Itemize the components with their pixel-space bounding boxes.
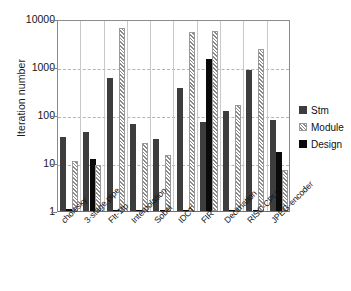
bar-stm bbox=[200, 122, 206, 211]
bar-group bbox=[151, 21, 174, 211]
legend-item: Module bbox=[299, 120, 351, 134]
legend-item: Design bbox=[299, 137, 351, 151]
bar-group bbox=[105, 21, 128, 211]
bar-stm bbox=[223, 111, 229, 211]
bar-group bbox=[198, 21, 221, 211]
iteration-number-bar-chart: Iteration number 100001000100101 cholesk… bbox=[0, 0, 351, 291]
bar-group bbox=[268, 21, 291, 211]
bar-group bbox=[221, 21, 244, 211]
bar-module bbox=[258, 49, 264, 211]
bar-module bbox=[212, 31, 218, 211]
y-axis-tick-label: 10 bbox=[0, 157, 55, 169]
y-axis-title: Iteration number bbox=[15, 33, 27, 163]
legend-label: Stm bbox=[311, 105, 329, 116]
bar-stm bbox=[130, 124, 136, 211]
y-axis-tick-label: 100 bbox=[0, 109, 55, 121]
bar-stm bbox=[60, 137, 66, 211]
plot-area bbox=[57, 20, 290, 212]
bar-group bbox=[81, 21, 104, 211]
bar-group bbox=[128, 21, 151, 211]
y-axis-tick-label: 1000 bbox=[0, 61, 55, 73]
legend-swatch-stm bbox=[299, 106, 307, 114]
bar-group bbox=[244, 21, 267, 211]
bar-module bbox=[119, 28, 125, 211]
bar-stm bbox=[177, 88, 183, 211]
y-axis-tick-label: 1 bbox=[0, 205, 55, 217]
y-axis-tick-mark bbox=[51, 212, 57, 213]
y-axis-tick-label: 10000 bbox=[0, 13, 55, 25]
legend-swatch-design bbox=[299, 140, 307, 148]
bar-module bbox=[189, 32, 195, 211]
legend-label: Design bbox=[311, 139, 342, 150]
legend-item: Stm bbox=[299, 103, 351, 117]
bar-group bbox=[175, 21, 198, 211]
bar-module bbox=[235, 105, 241, 211]
legend-swatch-module bbox=[299, 123, 307, 131]
chart-legend: StmModuleDesign bbox=[299, 103, 351, 154]
legend-label: Module bbox=[311, 122, 344, 133]
bar-group bbox=[58, 21, 81, 211]
